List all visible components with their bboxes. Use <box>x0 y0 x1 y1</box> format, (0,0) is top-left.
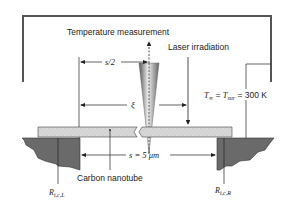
enclosure-leader <box>246 64 271 89</box>
temperature-measurement-label: Temperature measurement <box>67 27 170 37</box>
nanotube-diagram: Temperature measurement Laser irradiatio… <box>0 0 295 214</box>
carbon-nanotube-label: Carbon nanotube <box>77 173 143 183</box>
left-support <box>22 138 80 170</box>
ambient-temperature-label: T∞ = Tsur = 300 K <box>204 90 267 101</box>
contact-resistance-left-label: Rt,c,L <box>48 188 65 198</box>
contact-resistance-right-label: Rt,c,R <box>214 186 231 196</box>
carbon-nanotube-left <box>38 127 137 137</box>
half-length-label: s/2 <box>105 57 116 67</box>
xi-label: ξ <box>131 100 135 110</box>
right-support <box>217 138 274 170</box>
laser-irradiation-label: Laser irradiation <box>168 42 229 52</box>
probe-tip-icon <box>139 63 159 153</box>
carbon-nanotube-right <box>139 127 232 137</box>
span-label: s = 5 μm <box>129 150 159 160</box>
